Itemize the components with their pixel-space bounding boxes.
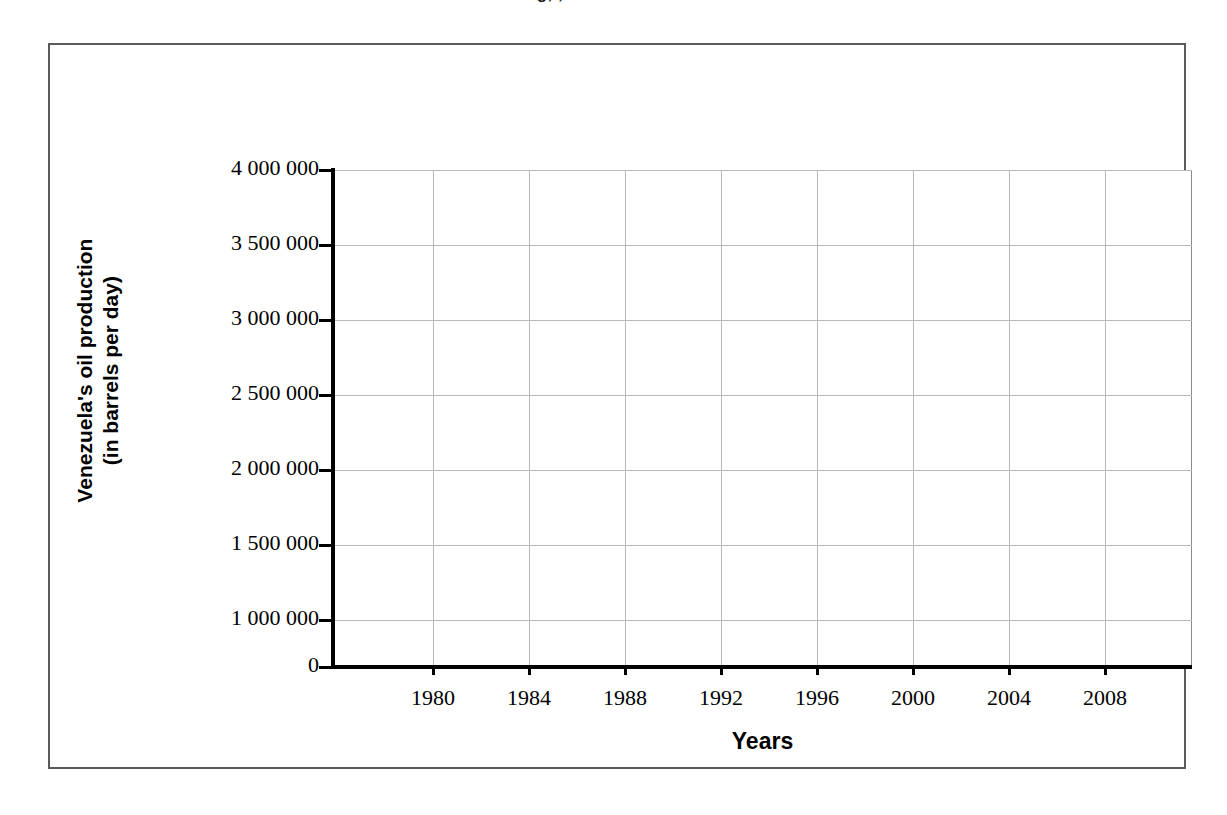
gridline-horizontal [333, 620, 1192, 621]
y-axis-tick-mark [319, 169, 333, 172]
y-axis-title-line-1: Venezuela's oil production [73, 239, 96, 503]
gridline-horizontal [333, 170, 1192, 171]
y-axis-tick-label: 2 500 000 [109, 380, 319, 406]
y-axis-tick-mark [319, 544, 333, 547]
x-axis-tick-mark [1104, 665, 1107, 675]
gridline-vertical [817, 170, 818, 667]
y-axis-title-line-2: (in barrels per day) [99, 276, 122, 465]
gridline-vertical [1009, 170, 1010, 667]
gridline-vertical [1105, 170, 1106, 667]
x-axis-tick-mark [816, 665, 819, 675]
y-axis-tick-label: 1 000 000 [109, 605, 319, 631]
y-axis-tick-label: 4 000 000 [109, 155, 319, 181]
gridline-horizontal [333, 470, 1192, 471]
x-axis-title: Years [333, 728, 1192, 755]
gridline-vertical [529, 170, 530, 667]
y-axis-title: Venezuela's oil production (in barrels p… [72, 211, 123, 531]
chart-page: g, , 4 000 0003 500 0003 000 0002 500 00… [0, 0, 1227, 815]
y-axis-tick-mark [319, 394, 333, 397]
figure-frame: 4 000 0003 500 0003 000 0002 500 0002 00… [48, 43, 1186, 769]
y-axis-tick-mark [319, 666, 333, 669]
x-axis-tick-mark [1008, 665, 1011, 675]
x-axis-tick-mark [912, 665, 915, 675]
y-axis-tick-label: 2 000 000 [109, 455, 319, 481]
x-axis-tick-label: 2008 [1045, 685, 1165, 711]
y-axis-tick-mark [319, 619, 333, 622]
y-axis-tick-label: 1 500 000 [109, 530, 319, 556]
gridline-vertical [433, 170, 434, 667]
y-axis-tick-mark [319, 244, 333, 247]
gridline-horizontal [333, 245, 1192, 246]
y-axis-tick-label: 0 [109, 652, 319, 678]
y-axis-tick-mark [319, 319, 333, 322]
gridline-vertical [721, 170, 722, 667]
x-axis-tick-mark [624, 665, 627, 675]
y-axis-tick-mark [319, 469, 333, 472]
gridline-horizontal [333, 320, 1192, 321]
x-axis-tick-mark [720, 665, 723, 675]
x-axis-tick-mark [528, 665, 531, 675]
x-axis-tick-mark [432, 665, 435, 675]
y-axis-tick-label: 3 000 000 [109, 305, 319, 331]
gridline-vertical [625, 170, 626, 667]
gridline-horizontal [333, 545, 1192, 546]
cut-off-title-fragment: g, , [300, 0, 800, 4]
x-axis-line [331, 665, 1192, 669]
plot-area [333, 170, 1192, 667]
gridline-horizontal [333, 395, 1192, 396]
y-axis-tick-label: 3 500 000 [109, 230, 319, 256]
gridline-vertical [913, 170, 914, 667]
